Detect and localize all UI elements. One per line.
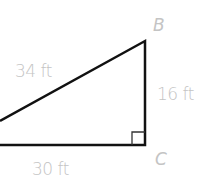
vertex-label-c: C	[155, 151, 167, 168]
triangle-diagram: B C 34 ft 16 ft 30 ft	[0, 0, 210, 182]
vertical-side-length-label: 16 ft	[157, 86, 194, 103]
triangle-outline	[0, 41, 145, 145]
base-length-label: 30 ft	[32, 161, 69, 178]
right-angle-marker	[132, 132, 145, 145]
vertex-label-b: B	[153, 17, 165, 34]
hypotenuse-length-label: 34 ft	[15, 63, 52, 80]
